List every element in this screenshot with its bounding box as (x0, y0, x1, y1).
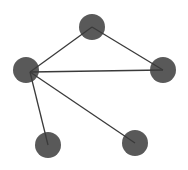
graph-canvas (0, 0, 188, 170)
graph-diagram (0, 0, 188, 170)
edge-top-right (92, 27, 163, 70)
nodes-layer (13, 14, 176, 158)
edge-left-top (30, 27, 92, 72)
node-left (13, 57, 39, 83)
edge-left-right (30, 70, 163, 72)
